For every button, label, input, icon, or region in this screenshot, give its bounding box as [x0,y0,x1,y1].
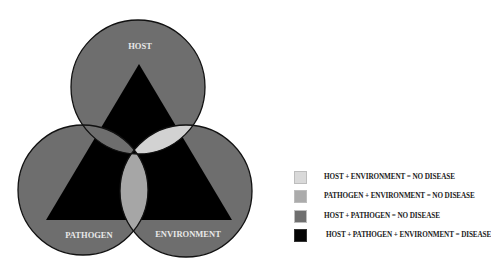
legend-item-host-environment: HOST + ENVIRONMENT = NO DISEASE [294,170,455,184]
legend-swatch-black [294,229,307,242]
pathogen-label: PATHOGEN [65,230,113,240]
legend-item-host-pathogen: HOST + PATHOGEN = NO DISEASE [294,209,440,223]
legend-swatch-light-gray [294,171,307,184]
legend-label: HOST + PATHOGEN + ENVIRONMENT = DISEASE [326,231,491,239]
legend-swatch-dark-gray [294,210,307,223]
legend-label: HOST + ENVIRONMENT = NO DISEASE [324,173,455,181]
legend-item-all-three: HOST + PATHOGEN + ENVIRONMENT = DISEASE [294,228,491,242]
legend-label: HOST + PATHOGEN = NO DISEASE [324,212,440,220]
environment-label: ENVIRONMENT [155,229,221,239]
host-label: HOST [128,41,152,51]
venn-diagram: HOST PATHOGEN ENVIRONMENT [0,0,270,270]
legend-item-pathogen-environment: PATHOGEN + ENVIRONMENT = NO DISEASE [294,189,475,203]
legend-label: PATHOGEN + ENVIRONMENT = NO DISEASE [324,192,475,200]
legend-swatch-medium-gray [294,190,307,203]
